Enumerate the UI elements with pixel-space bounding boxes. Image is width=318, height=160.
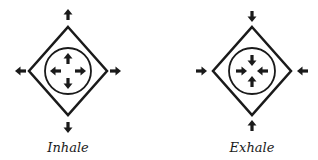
arrow-down-icon bbox=[64, 122, 73, 133]
arrow-left-icon bbox=[297, 67, 308, 76]
inner-arrow-left-icon bbox=[50, 67, 61, 76]
arrow-right-icon bbox=[196, 67, 207, 76]
arrow-up-icon bbox=[248, 120, 257, 131]
circle-shape bbox=[229, 48, 275, 94]
diamond-shape bbox=[29, 27, 107, 115]
inhale-label: Inhale bbox=[18, 140, 118, 155]
inner-arrow-up-icon bbox=[248, 76, 257, 87]
inner-arrow-down-icon bbox=[64, 78, 73, 89]
diamond-shape bbox=[213, 27, 291, 115]
inner-arrow-right-icon bbox=[75, 67, 86, 76]
inner-arrow-left-icon bbox=[257, 67, 268, 76]
arrow-right-icon bbox=[110, 67, 121, 76]
exhale-label: Exhale bbox=[202, 140, 302, 155]
arrow-left-icon bbox=[15, 67, 26, 76]
inner-arrow-up-icon bbox=[64, 53, 73, 64]
arrow-up-icon bbox=[64, 9, 73, 20]
exhale-diagram bbox=[196, 11, 308, 131]
inner-arrow-right-icon bbox=[236, 67, 247, 76]
arrow-down-icon bbox=[248, 11, 257, 22]
breath-diagrams bbox=[0, 0, 318, 160]
inhale-diagram bbox=[15, 9, 121, 133]
inner-arrow-down-icon bbox=[248, 55, 257, 66]
